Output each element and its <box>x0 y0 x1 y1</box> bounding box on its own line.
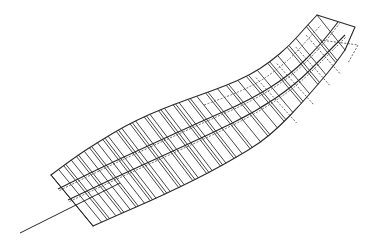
mesh-ribs <box>51 15 345 226</box>
mesh-rib <box>208 92 252 147</box>
mesh-rib <box>118 130 166 193</box>
top-edge-curve <box>51 15 317 175</box>
longitudinal-spines <box>58 22 347 202</box>
mesh-rib <box>197 96 242 154</box>
wireframe-diagram <box>0 0 374 249</box>
mesh-rib <box>97 143 144 204</box>
mesh-rib <box>179 103 226 164</box>
mesh-rib <box>268 63 302 103</box>
mesh-rib <box>270 62 303 101</box>
tail-line <box>20 183 120 233</box>
mesh-rib <box>159 111 207 174</box>
mesh-dashed-lines <box>204 25 340 123</box>
mesh-rib <box>130 124 179 188</box>
mesh-dashed-rib <box>296 47 330 86</box>
left-end-edge <box>51 175 93 226</box>
mesh-dashed-rib <box>256 78 297 123</box>
mesh-rib <box>287 47 318 84</box>
longitudinal-spine <box>68 35 345 200</box>
mesh-rib <box>190 99 236 158</box>
mesh-rib <box>144 117 193 181</box>
bottom-edge-curve <box>93 50 345 226</box>
mesh-rib <box>289 46 319 83</box>
